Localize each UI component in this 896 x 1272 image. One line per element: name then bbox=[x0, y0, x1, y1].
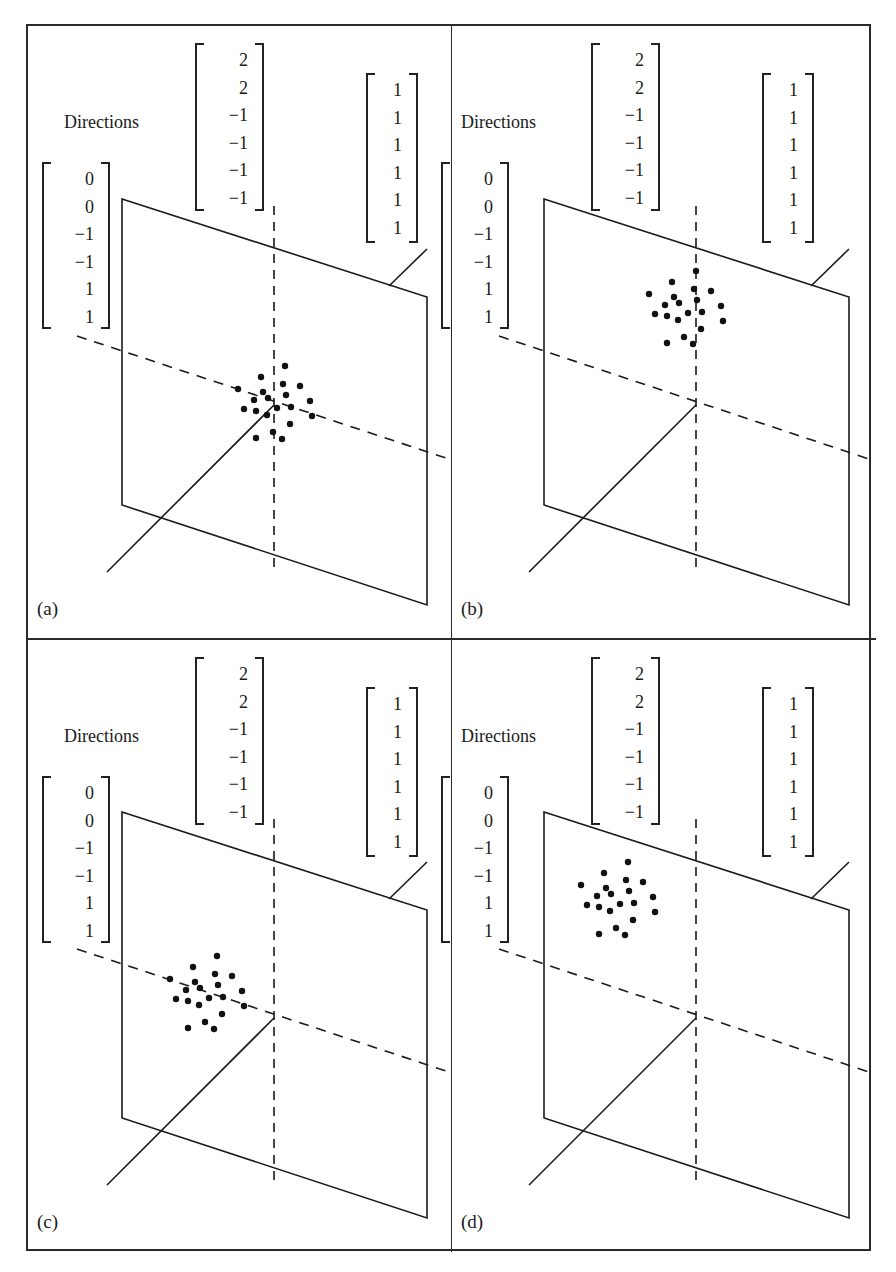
axis-stub-back bbox=[811, 862, 849, 899]
diagonal-dashed-axis bbox=[77, 949, 452, 1073]
panel-a: Directions 00−1−111 22−1−1−1−1 111111 (a… bbox=[28, 26, 452, 640]
directions-label: Directions bbox=[461, 112, 536, 133]
direction-vector-right: 111111 bbox=[366, 687, 418, 857]
axis-stub-back bbox=[389, 249, 427, 286]
direction-vector-left: 00−1−111 bbox=[441, 776, 509, 943]
data-point-cluster bbox=[646, 268, 726, 347]
panel-b: Directions 00−1−111 22−1−1−1−1 111111 (b… bbox=[452, 26, 876, 640]
directions-label: Directions bbox=[64, 726, 139, 747]
directions-label: Directions bbox=[64, 112, 139, 133]
direction-vector-right: 111111 bbox=[762, 73, 814, 243]
direction-vector-middle: 22−1−1−1−1 bbox=[591, 657, 660, 825]
direction-vector-left: 00−1−111 bbox=[42, 776, 110, 943]
axis-stub-back bbox=[389, 862, 427, 899]
panel-c: Directions 00−1−111 22−1−1−1−1 111111 (c… bbox=[28, 638, 452, 1252]
panel-tag: (b) bbox=[461, 598, 483, 620]
panel-tag: (a) bbox=[37, 598, 58, 620]
panel-tag: (d) bbox=[461, 1211, 483, 1233]
direction-vector-left: 00−1−111 bbox=[42, 162, 110, 329]
diagonal-dashed-axis bbox=[499, 949, 872, 1073]
direction-vector-middle: 22−1−1−1−1 bbox=[195, 43, 264, 211]
axis-stub-back bbox=[811, 249, 849, 286]
panel-tag: (c) bbox=[37, 1211, 58, 1233]
direction-vector-right: 111111 bbox=[762, 687, 814, 857]
data-point-cluster bbox=[167, 953, 247, 1032]
direction-vector-right: 111111 bbox=[366, 73, 418, 243]
diagonal-dashed-axis bbox=[499, 336, 872, 460]
diagonal-dashed-axis bbox=[77, 336, 452, 460]
direction-vector-left: 00−1−111 bbox=[441, 162, 509, 329]
direction-vector-middle: 22−1−1−1−1 bbox=[195, 657, 264, 825]
panel-d: Directions 00−1−111 22−1−1−1−1 111111 (d… bbox=[452, 638, 876, 1252]
data-point-cluster bbox=[235, 363, 315, 442]
data-point-cluster bbox=[578, 859, 658, 938]
direction-vector-middle: 22−1−1−1−1 bbox=[591, 43, 660, 211]
directions-label: Directions bbox=[461, 726, 536, 747]
figure-frame: Directions 00−1−111 22−1−1−1−1 111111 (a… bbox=[26, 24, 871, 1251]
